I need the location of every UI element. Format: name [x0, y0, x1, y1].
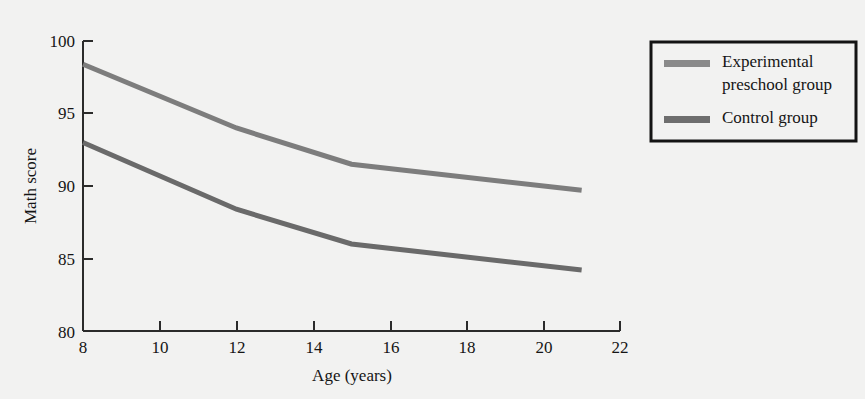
- y-tick-label-85: 85: [58, 250, 75, 269]
- y-tick-label-80: 80: [58, 323, 75, 342]
- line-chart: Math score 100 95 90 85 80 8 10 12 14 16…: [0, 0, 865, 399]
- x-tick-label-12: 12: [229, 338, 246, 357]
- x-tick-label-14: 14: [306, 338, 324, 357]
- x-tick-label-20: 20: [536, 338, 553, 357]
- x-tick-label-8: 8: [79, 338, 88, 357]
- series-line-experimental: [83, 64, 582, 190]
- x-tick-label-18: 18: [459, 338, 476, 357]
- legend-swatch-control: [664, 116, 710, 123]
- chart-figure: Math score 100 95 90 85 80 8 10 12 14 16…: [0, 0, 865, 399]
- y-tick-label-95: 95: [58, 104, 75, 123]
- legend-swatch-experimental: [664, 60, 710, 67]
- y-axis-title: Math score: [21, 148, 40, 224]
- series-line-control: [83, 143, 582, 271]
- x-axis-title: Age (years): [312, 366, 392, 385]
- x-tick-label-22: 22: [612, 338, 629, 357]
- legend-label-control: Control group: [722, 108, 818, 127]
- legend-label-experimental-line2: preschool group: [722, 75, 832, 94]
- y-tick-label-100: 100: [50, 32, 76, 51]
- y-tick-label-90: 90: [58, 177, 75, 196]
- x-tick-label-10: 10: [152, 338, 169, 357]
- legend-label-experimental-line1: Experimental: [722, 52, 814, 71]
- x-tick-label-16: 16: [383, 338, 400, 357]
